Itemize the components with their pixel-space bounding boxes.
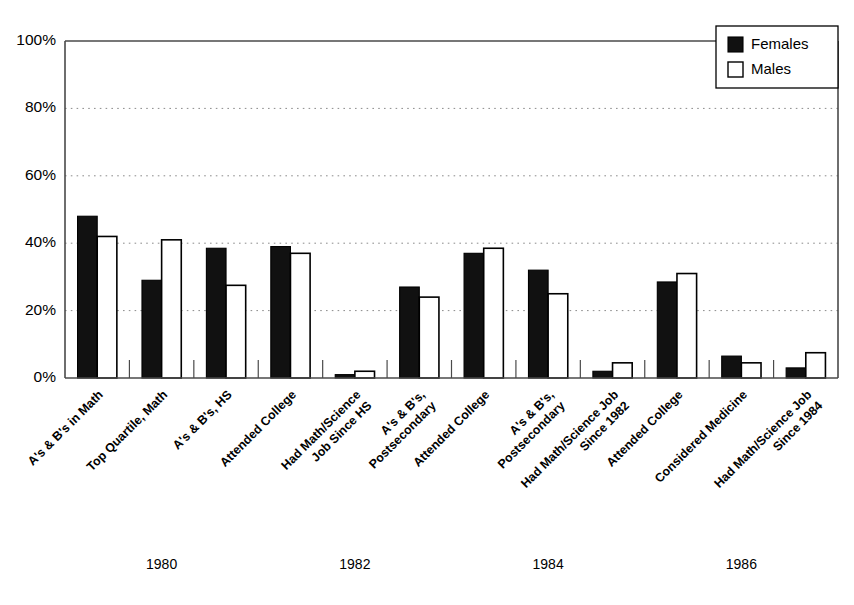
year-label-1984: 1984 xyxy=(533,556,564,572)
y-axis-tick-labels: 100%80%60%40%20%0% xyxy=(16,31,56,385)
bar-females xyxy=(206,248,226,378)
bar-females xyxy=(657,282,677,378)
category-labels: A's & B's in MathTop Quartile, MathA's &… xyxy=(25,387,826,501)
bar-females xyxy=(528,270,548,378)
bars-group xyxy=(78,216,826,378)
y-tick-label: 80% xyxy=(25,98,56,115)
bar-males xyxy=(806,353,826,378)
bar-males xyxy=(355,371,375,378)
bar-females xyxy=(464,253,484,378)
legend-label-males: Males xyxy=(751,60,791,77)
legend-swatch-females xyxy=(728,37,743,52)
bar-chart: 100%80%60%40%20%0% A's & B's in MathTop … xyxy=(0,0,854,605)
bar-males xyxy=(484,248,504,378)
category-label: A's & B's, HS xyxy=(170,388,235,453)
chart-legend: FemalesMales xyxy=(716,26,838,88)
y-tick-label: 20% xyxy=(25,301,56,318)
bar-females xyxy=(786,368,806,378)
bar-females xyxy=(271,247,291,378)
bar-males xyxy=(677,274,697,378)
bar-males xyxy=(290,253,310,378)
bar-males xyxy=(613,363,633,378)
bar-males xyxy=(548,294,568,378)
bar-females xyxy=(142,280,162,378)
bar-females xyxy=(78,216,98,378)
legend-swatch-males xyxy=(728,62,743,77)
bar-males xyxy=(97,236,117,378)
bar-males xyxy=(741,363,761,378)
y-tick-label: 40% xyxy=(25,233,56,250)
y-tick-label: 100% xyxy=(16,31,56,48)
bar-females xyxy=(593,371,613,378)
y-tick-label: 0% xyxy=(34,368,57,385)
year-labels: 1980198219841986 xyxy=(146,556,757,572)
bar-males xyxy=(419,297,439,378)
bar-males xyxy=(226,285,246,378)
y-tick-label: 60% xyxy=(25,166,56,183)
bar-females xyxy=(400,287,420,378)
year-label-1980: 1980 xyxy=(146,556,177,572)
bar-females xyxy=(722,356,742,378)
legend-label-females: Females xyxy=(751,35,809,52)
year-label-1986: 1986 xyxy=(726,556,757,572)
category-label-line: A's & B's, HS xyxy=(170,388,235,453)
year-label-1982: 1982 xyxy=(339,556,370,572)
bar-males xyxy=(162,240,182,378)
chart-canvas: 100%80%60%40%20%0% A's & B's in MathTop … xyxy=(0,0,854,605)
